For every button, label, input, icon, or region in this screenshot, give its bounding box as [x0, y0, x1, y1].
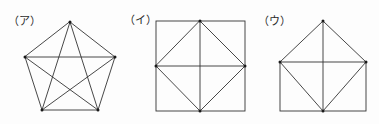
vertex-dot: [244, 65, 247, 68]
vertex-dot: [199, 20, 202, 23]
figures-canvas: [0, 0, 379, 124]
vertex-dot: [199, 110, 202, 113]
figure-house: [280, 21, 366, 111]
figure-label-a: （ア）: [8, 12, 41, 28]
figure-label-i: （イ）: [124, 11, 157, 27]
vertex-dot: [41, 109, 44, 112]
vertex-dot: [322, 110, 325, 113]
vertex-dot: [114, 56, 117, 59]
pentagon-outline: [25, 22, 115, 110]
pentagon-diagonal: [25, 57, 98, 110]
house-diagonal-left: [280, 62, 323, 111]
pentagon-diagonal: [42, 57, 115, 110]
house-diagonal-right: [323, 62, 366, 111]
vertex-dot: [24, 56, 27, 59]
figure-board: （ア） （イ） （ウ）: [0, 0, 379, 124]
figure-label-u: （ウ）: [258, 12, 291, 28]
vertex-dot: [279, 61, 282, 64]
vertex-dot: [322, 20, 325, 23]
pentagon-diagonal: [42, 22, 70, 110]
vertex-dot: [365, 61, 368, 64]
pentagon-diagonal: [70, 22, 98, 110]
vertex-dot: [69, 21, 72, 24]
figure-square-diamond: [156, 21, 245, 111]
figure-pentagon: [25, 22, 115, 110]
vertex-dot: [97, 109, 100, 112]
vertex-dot: [155, 65, 158, 68]
